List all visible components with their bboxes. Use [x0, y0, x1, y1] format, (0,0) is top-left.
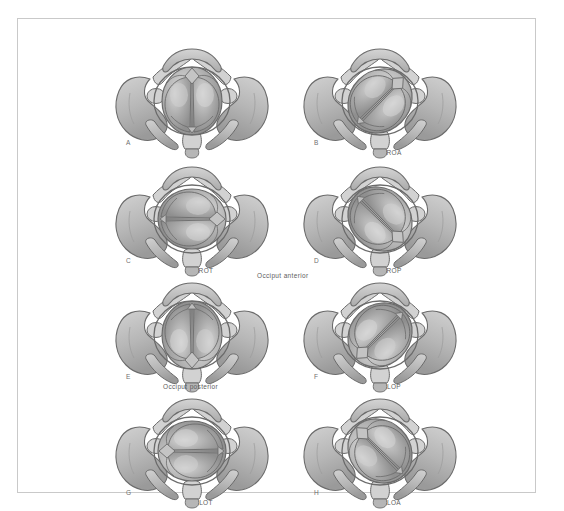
panel-b-caption: ROA — [386, 149, 401, 156]
occiput-posterior-caption: Occiput posterior — [163, 383, 218, 390]
panel-e-letter: E — [126, 373, 131, 380]
pelvis-illustration — [106, 391, 278, 511]
pelvis-illustration — [106, 275, 278, 397]
panel-a-letter: A — [126, 139, 131, 146]
panel-d: DROP — [294, 159, 466, 281]
pelvis-illustration — [106, 159, 278, 281]
panel-c-letter: C — [126, 257, 131, 264]
figure-frame: A — [17, 18, 536, 493]
pelvis-illustration — [294, 159, 466, 281]
panel-g: GLOT — [106, 391, 278, 511]
panel-b-letter: B — [314, 139, 319, 146]
pelvis-illustration — [294, 275, 466, 397]
panel-h-caption: LOA — [387, 499, 401, 506]
panel-b: BROA — [294, 41, 466, 163]
panel-e: E — [106, 275, 278, 397]
panel-g-letter: G — [126, 489, 131, 496]
pelvis-illustration — [106, 41, 278, 163]
panel-f-caption: LOP — [387, 383, 401, 390]
panel-f-letter: F — [314, 373, 318, 380]
panel-d-letter: D — [314, 257, 319, 264]
panel-h: HLOA — [294, 391, 466, 511]
pelvis-illustration — [294, 391, 466, 511]
panel-d-caption: ROP — [386, 267, 401, 274]
pelvis-illustration — [294, 41, 466, 163]
panel-c: CROT — [106, 159, 278, 281]
panel-c-caption: ROT — [199, 267, 214, 274]
panel-a: A — [106, 41, 278, 163]
panel-f: FLOP — [294, 275, 466, 397]
panel-g-caption: LOT — [199, 499, 213, 506]
occiput-anterior-caption: Occiput anterior — [257, 272, 308, 279]
panel-h-letter: H — [314, 489, 319, 496]
